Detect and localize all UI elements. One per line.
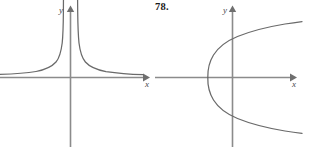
graph-panel-left: y x [0,0,155,157]
graph-panel-right: y x [155,0,309,157]
left-graph-svg [0,0,155,157]
right-y-axis-label: y [223,6,227,15]
left-y-axis-arrow-up-icon [67,6,74,13]
problem-number-label: 78. [155,2,169,13]
left-y-axis-label: y [59,6,63,15]
right-graph-parabola-lower [208,78,302,134]
right-graph-svg [155,0,309,157]
left-x-axis-label: x [145,80,149,89]
right-x-axis-label: x [292,80,296,89]
right-graph-parabola-upper [208,22,302,78]
left-graph-branch-left [0,0,63,75]
figure-root: y x y x 78. [0,0,309,157]
right-y-axis-arrow-up-icon [229,6,236,13]
left-graph-branch-right [78,0,143,75]
